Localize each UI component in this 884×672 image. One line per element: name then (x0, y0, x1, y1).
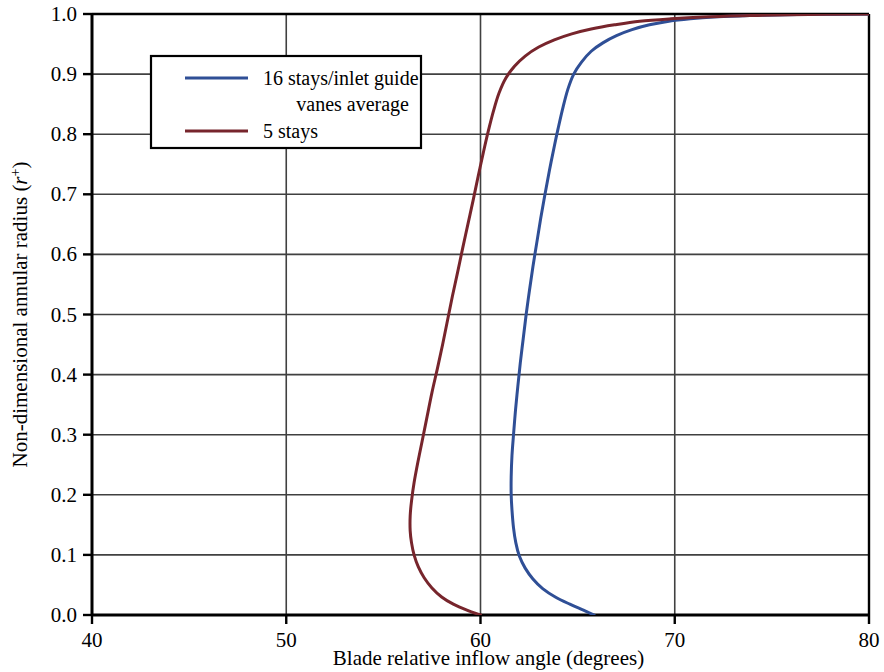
line-chart: 0.00.10.20.30.40.50.60.70.80.91.04050607… (0, 0, 884, 672)
x-tick-label: 40 (82, 628, 103, 652)
x-tick-label: 70 (664, 628, 685, 652)
x-tick-label: 50 (276, 628, 297, 652)
y-axis-title: Non-dimensional annular radius (r+) (8, 162, 33, 468)
y-tick-label: 0.3 (51, 423, 77, 447)
legend-label: 16 stays/inlet guide (263, 67, 419, 90)
legend: 16 stays/inlet guidevanes average5 stays (151, 56, 421, 148)
y-tick-label: 0.0 (51, 603, 77, 627)
legend-label: 5 stays (263, 120, 318, 143)
y-tick-label: 0.5 (51, 303, 77, 327)
legend-label-line2: vanes average (296, 93, 409, 116)
chart-container: 0.00.10.20.30.40.50.60.70.80.91.04050607… (0, 0, 884, 672)
x-axis-title: Blade relative inflow angle (degrees) (333, 646, 644, 670)
x-tick-label: 80 (859, 628, 880, 652)
y-tick-label: 0.4 (51, 363, 78, 387)
y-tick-label: 0.8 (51, 122, 77, 146)
y-tick-label: 0.2 (51, 483, 77, 507)
y-tick-label: 0.6 (51, 242, 77, 266)
y-tick-label: 0.9 (51, 62, 77, 86)
y-tick-label: 1.0 (51, 2, 77, 26)
y-tick-label: 0.7 (51, 182, 77, 206)
chart-background (0, 0, 884, 672)
y-tick-label: 0.1 (51, 543, 77, 567)
